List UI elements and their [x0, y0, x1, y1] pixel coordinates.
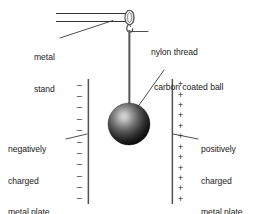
negative-charge-symbol: –: [75, 125, 84, 135]
label-positive-plate-line2: charged: [201, 176, 243, 187]
negative-metal-plate: [87, 79, 89, 204]
label-positive-plate-line3: metal plate: [201, 207, 243, 214]
carbon-coated-ball: [108, 103, 150, 145]
label-metal-stand: metal stand: [34, 31, 55, 115]
label-positive-plate-line1: positively: [201, 144, 243, 155]
positive-charge-symbol: +: [176, 110, 185, 120]
positive-charge-symbol: +: [176, 173, 185, 183]
label-metal-stand-line2: stand: [34, 84, 55, 95]
label-carbon-coated-ball-line1: carbon coated ball: [154, 82, 223, 93]
positive-charge-symbol: +: [176, 90, 185, 100]
label-nylon-thread-line1: nylon thread: [151, 47, 198, 58]
positive-charge-symbol: +: [176, 100, 185, 110]
label-carbon-coated-ball: carbon coated ball: [154, 61, 223, 114]
negative-charge-symbol: –: [75, 91, 84, 101]
positive-charge-symbol: +: [176, 121, 185, 131]
positive-charge-symbol: +: [176, 183, 185, 193]
negative-charge-symbol: –: [75, 80, 84, 90]
label-negative-plate-line2: charged: [8, 176, 50, 187]
nylon-thread: [128, 30, 130, 105]
label-metal-stand-line1: metal: [34, 52, 55, 63]
negative-charge-symbol: –: [75, 148, 84, 158]
clamp-ring-icon: [125, 10, 134, 24]
negative-charge-symbol: –: [75, 114, 84, 124]
positive-charge-symbol: +: [176, 194, 185, 204]
metal-stand-beam: [56, 14, 128, 22]
label-negative-plate: negatively charged metal plate: [8, 123, 50, 214]
positive-charge-symbol: +: [176, 79, 185, 89]
label-positive-plate: positively charged metal plate: [201, 123, 243, 214]
label-negative-plate-line1: negatively: [8, 144, 50, 155]
leader-metal-stand: [60, 21, 113, 39]
negative-charge-symbol: –: [75, 102, 84, 112]
label-negative-plate-line3: metal plate: [8, 207, 50, 214]
positive-charge-symbol: +: [176, 163, 185, 173]
negative-charge-symbol: –: [75, 193, 84, 203]
positive-charge-symbol: +: [176, 142, 185, 152]
negative-charge-symbol: –: [75, 182, 84, 192]
negative-charge-symbol: –: [75, 171, 84, 181]
negative-charge-symbol: –: [75, 159, 84, 169]
positive-charge-symbol: +: [176, 152, 185, 162]
electrostatics-diagram: metal stand nylon thread carbon coated b…: [0, 0, 264, 214]
negative-charge-symbol: –: [75, 137, 84, 147]
positive-charge-symbol: +: [176, 131, 185, 141]
